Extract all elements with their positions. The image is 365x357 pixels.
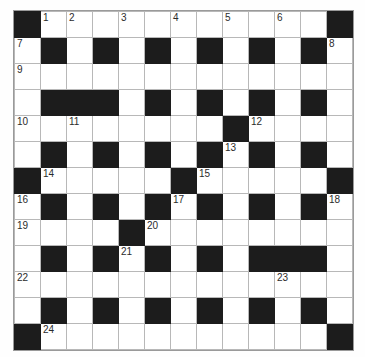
letter-cell[interactable] [119,194,145,220]
letter-cell[interactable] [67,142,93,168]
letter-cell[interactable] [249,220,275,246]
letter-cell[interactable] [197,272,223,298]
letter-cell[interactable] [223,168,249,194]
letter-cell[interactable]: 24 [41,324,67,350]
letter-cell[interactable] [41,64,67,90]
letter-cell[interactable]: 20 [145,220,171,246]
letter-cell[interactable] [301,64,327,90]
letter-cell[interactable] [67,64,93,90]
letter-cell[interactable] [327,116,353,142]
letter-cell[interactable]: 17 [171,194,197,220]
letter-cell[interactable] [119,64,145,90]
letter-cell[interactable] [145,12,171,38]
letter-cell[interactable]: 16 [15,194,41,220]
letter-cell[interactable] [275,168,301,194]
letter-cell[interactable] [301,272,327,298]
letter-cell[interactable]: 23 [275,272,301,298]
letter-cell[interactable] [93,168,119,194]
letter-cell[interactable] [301,220,327,246]
letter-cell[interactable] [67,298,93,324]
letter-cell[interactable] [249,168,275,194]
letter-cell[interactable] [197,12,223,38]
letter-cell[interactable] [327,64,353,90]
letter-cell[interactable] [275,90,301,116]
letter-cell[interactable] [327,298,353,324]
letter-cell[interactable] [275,194,301,220]
letter-cell[interactable]: 15 [197,168,223,194]
letter-cell[interactable] [119,38,145,64]
letter-cell[interactable] [171,90,197,116]
letter-cell[interactable] [15,298,41,324]
letter-cell[interactable] [67,168,93,194]
letter-cell[interactable] [93,324,119,350]
letter-cell[interactable] [119,324,145,350]
letter-cell[interactable] [67,324,93,350]
letter-cell[interactable] [223,220,249,246]
letter-cell[interactable] [301,324,327,350]
letter-cell[interactable] [249,272,275,298]
letter-cell[interactable]: 1 [41,12,67,38]
letter-cell[interactable] [223,194,249,220]
letter-cell[interactable] [41,220,67,246]
letter-cell[interactable]: 13 [223,142,249,168]
letter-cell[interactable]: 12 [249,116,275,142]
letter-cell[interactable] [223,272,249,298]
letter-cell[interactable] [223,298,249,324]
letter-cell[interactable]: 4 [171,12,197,38]
letter-cell[interactable] [223,64,249,90]
letter-cell[interactable] [145,168,171,194]
letter-cell[interactable] [327,220,353,246]
letter-cell[interactable] [249,12,275,38]
letter-cell[interactable] [223,324,249,350]
letter-cell[interactable]: 18 [327,194,353,220]
letter-cell[interactable] [171,324,197,350]
letter-cell[interactable] [119,298,145,324]
letter-cell[interactable] [275,298,301,324]
letter-cell[interactable] [93,272,119,298]
letter-cell[interactable] [93,12,119,38]
letter-cell[interactable] [15,246,41,272]
letter-cell[interactable] [275,220,301,246]
letter-cell[interactable]: 2 [67,12,93,38]
letter-cell[interactable] [145,116,171,142]
letter-cell[interactable] [301,116,327,142]
letter-cell[interactable] [275,38,301,64]
letter-cell[interactable] [119,272,145,298]
letter-cell[interactable]: 8 [327,38,353,64]
letter-cell[interactable]: 22 [15,272,41,298]
letter-cell[interactable]: 9 [15,64,41,90]
letter-cell[interactable] [145,64,171,90]
letter-cell[interactable] [171,116,197,142]
letter-cell[interactable]: 7 [15,38,41,64]
letter-cell[interactable] [223,246,249,272]
letter-cell[interactable] [275,64,301,90]
letter-cell[interactable] [197,220,223,246]
letter-cell[interactable]: 6 [275,12,301,38]
letter-cell[interactable] [171,142,197,168]
letter-cell[interactable] [67,194,93,220]
letter-cell[interactable] [327,142,353,168]
letter-cell[interactable] [223,90,249,116]
letter-cell[interactable] [67,246,93,272]
letter-cell[interactable] [275,142,301,168]
letter-cell[interactable] [197,116,223,142]
letter-cell[interactable] [15,90,41,116]
letter-cell[interactable] [171,64,197,90]
letter-cell[interactable] [93,220,119,246]
letter-cell[interactable] [171,220,197,246]
letter-cell[interactable] [93,64,119,90]
letter-cell[interactable]: 11 [67,116,93,142]
letter-cell[interactable] [145,324,171,350]
letter-cell[interactable]: 14 [41,168,67,194]
letter-cell[interactable] [327,272,353,298]
letter-cell[interactable] [119,116,145,142]
letter-cell[interactable] [223,38,249,64]
letter-cell[interactable] [197,324,223,350]
letter-cell[interactable]: 10 [15,116,41,142]
letter-cell[interactable] [327,246,353,272]
letter-cell[interactable] [301,168,327,194]
letter-cell[interactable] [41,272,67,298]
letter-cell[interactable] [275,324,301,350]
letter-cell[interactable] [171,38,197,64]
letter-cell[interactable] [41,116,67,142]
